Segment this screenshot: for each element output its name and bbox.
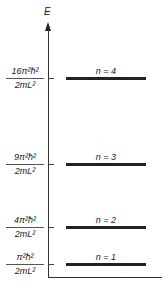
energy-axis-label: E xyxy=(44,6,51,17)
level-label-n4: n = 4 xyxy=(66,66,146,76)
baseline-axis xyxy=(48,277,162,278)
energy-axis xyxy=(48,28,49,277)
tick-n1 xyxy=(48,264,54,265)
energy-value-n2: 4π²ħ² 2mL² xyxy=(6,215,44,240)
denominator: 2mL² xyxy=(6,265,44,277)
tick-n4 xyxy=(48,78,54,79)
energy-value-n4: 16π²ħ² 2mL² xyxy=(6,66,44,91)
level-label-n3: n = 3 xyxy=(66,152,146,162)
denominator: 2mL² xyxy=(6,228,44,240)
numerator: 9π²ħ² xyxy=(6,152,44,165)
energy-level-n4 xyxy=(66,77,146,80)
denominator: 2mL² xyxy=(6,79,44,91)
numerator: 4π²ħ² xyxy=(6,215,44,228)
level-label-n1: n = 1 xyxy=(66,252,146,262)
energy-value-n3: 9π²ħ² 2mL² xyxy=(6,152,44,177)
energy-level-n1 xyxy=(66,263,146,266)
energy-level-n2 xyxy=(66,226,146,229)
level-label-n2: n = 2 xyxy=(66,215,146,225)
denominator: 2mL² xyxy=(6,165,44,177)
tick-n3 xyxy=(48,164,54,165)
energy-value-n1: π²ħ² 2mL² xyxy=(6,252,44,277)
numerator: π²ħ² xyxy=(6,252,44,265)
tick-n2 xyxy=(48,227,54,228)
numerator: 16π²ħ² xyxy=(6,66,44,79)
energy-level-n3 xyxy=(66,163,146,166)
